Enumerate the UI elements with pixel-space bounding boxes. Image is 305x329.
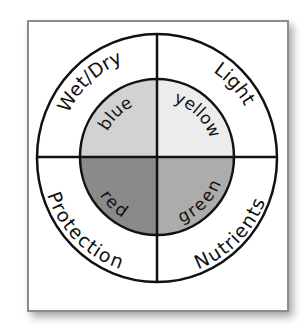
circle-diagram: Wet/Dry Light Protection Nutrients blue … [0,0,305,329]
